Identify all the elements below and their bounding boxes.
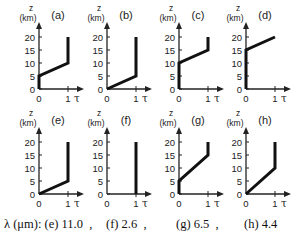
y-axis-title: z [97,108,101,118]
x-tick-label: 1 [205,198,210,209]
y-tick-label: 15 [231,150,242,161]
panel-e: 2015105001τz(km)(e) [20,108,85,209]
y-axis-arrow-icon [176,22,182,29]
tau-profile-line [39,142,68,194]
y-tick-label: 10 [231,163,242,174]
y-tick-label: 0 [170,189,175,200]
y-tick-label: 20 [92,32,103,43]
y-tick-label: 5 [98,71,103,82]
y-tick-label: 10 [164,163,175,174]
tau-symbol: τ [74,197,80,209]
tau-symbol: τ [281,92,287,104]
tau-symbol: τ [74,92,80,104]
y-tick-label: 5 [170,176,175,187]
panel-a: 2015105001τz(km)(a) [20,3,85,104]
tau-profile-line [179,142,208,194]
panel-h: 2015105001τz(km)(h) [227,108,292,209]
optical-depth-profiles-figure: 2015105001τz(km)(a)2015105001τz(km)(b)20… [0,0,302,215]
y-axis-title: z [29,108,33,118]
caption-g: (g) 6.5 , [176,217,219,232]
x-tick-label: 1 [65,93,70,104]
y-tick-label: 0 [170,84,175,95]
y-tick-label: 10 [24,58,35,69]
x-tick-label: 0 [176,198,181,209]
y-tick-label: 15 [24,150,35,161]
panel-label: (d) [258,9,271,21]
panel-label: (g) [191,114,204,126]
caption-f: (f) 2.6 , [106,217,147,232]
y-axis-unit: (km) [88,118,105,128]
tau-symbol: τ [214,197,220,209]
caption-h: (h) 4.4 [244,217,277,232]
wavelength-caption: λ (μm): (e) 11.0 , (f) 2.6 , (g) 6.5 , (… [4,217,10,242]
y-tick-label: 0 [237,84,242,95]
y-axis-unit: (km) [160,118,177,128]
y-tick-label: 10 [24,163,35,174]
panel-f: 2015105001τz(km)(f) [88,108,153,209]
y-axis-title: z [169,108,173,118]
y-tick-label: 20 [231,137,242,148]
y-axis-unit: (km) [227,118,244,128]
y-axis-arrow-icon [36,127,42,134]
panel-label: (f) [121,114,131,126]
y-tick-label: 15 [92,150,103,161]
panel-c: 2015105001τz(km)(c) [160,3,225,104]
y-tick-label: 20 [164,137,175,148]
tau-symbol: τ [142,197,148,209]
y-axis-arrow-icon [104,127,110,134]
y-axis-unit: (km) [88,13,105,23]
tau-symbol: τ [214,92,220,104]
y-axis-unit: (km) [20,118,37,128]
y-tick-label: 0 [237,189,242,200]
x-tick-label: 1 [205,93,210,104]
panel-label: (c) [192,9,205,21]
x-tick-label: 1 [133,198,138,209]
panel-d: 2015105001τz(km)(d) [227,3,292,104]
x-tick-label: 1 [272,93,277,104]
y-tick-label: 20 [24,137,35,148]
y-axis-title: z [29,3,33,13]
x-tick-label: 0 [176,93,181,104]
y-tick-label: 15 [92,45,103,56]
y-tick-label: 0 [98,84,103,95]
caption-e: λ (μm): (e) 11.0 , [4,217,92,232]
tau-profile-line [246,37,275,89]
y-tick-label: 20 [164,32,175,43]
y-tick-label: 15 [164,150,175,161]
tau-symbol: τ [281,197,287,209]
y-tick-label: 5 [98,176,103,187]
x-tick-label: 0 [36,93,41,104]
tau-profile-line [39,37,68,89]
y-tick-label: 15 [231,45,242,56]
y-tick-label: 0 [98,189,103,200]
y-axis-unit: (km) [160,13,177,23]
y-tick-label: 0 [30,189,35,200]
y-tick-label: 15 [24,45,35,56]
y-axis-title: z [236,108,240,118]
y-axis-title: z [97,3,101,13]
y-tick-label: 20 [92,137,103,148]
tau-profile-line [107,37,136,89]
x-tick-label: 0 [36,198,41,209]
y-tick-label: 15 [164,45,175,56]
y-axis-unit: (km) [20,13,37,23]
panel-b: 2015105001τz(km)(b) [88,3,153,104]
y-axis-title: z [169,3,173,13]
y-axis-unit: (km) [227,13,244,23]
y-tick-label: 20 [24,32,35,43]
panel-g: 2015105001τz(km)(g) [160,108,225,209]
y-tick-label: 5 [30,176,35,187]
y-axis-arrow-icon [243,22,249,29]
x-tick-label: 0 [243,93,248,104]
y-tick-label: 0 [30,84,35,95]
x-tick-label: 0 [104,93,109,104]
y-tick-label: 10 [231,58,242,69]
panel-label: (h) [258,114,271,126]
x-tick-label: 1 [133,93,138,104]
x-tick-label: 1 [65,198,70,209]
x-tick-label: 0 [243,198,248,209]
y-axis-arrow-icon [243,127,249,134]
panel-label: (e) [51,114,64,126]
y-tick-label: 20 [231,32,242,43]
y-axis-title: z [236,3,240,13]
